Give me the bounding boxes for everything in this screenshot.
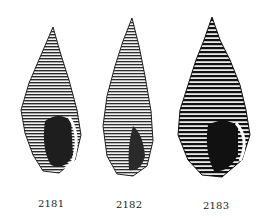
shell-2182 — [97, 16, 159, 178]
figure-label-2181: 2181 — [38, 198, 64, 209]
figure-label-2182: 2182 — [116, 199, 142, 210]
shell-2183 — [170, 15, 254, 180]
figure-label-2183: 2183 — [203, 200, 229, 211]
shell-2181 — [15, 25, 85, 175]
